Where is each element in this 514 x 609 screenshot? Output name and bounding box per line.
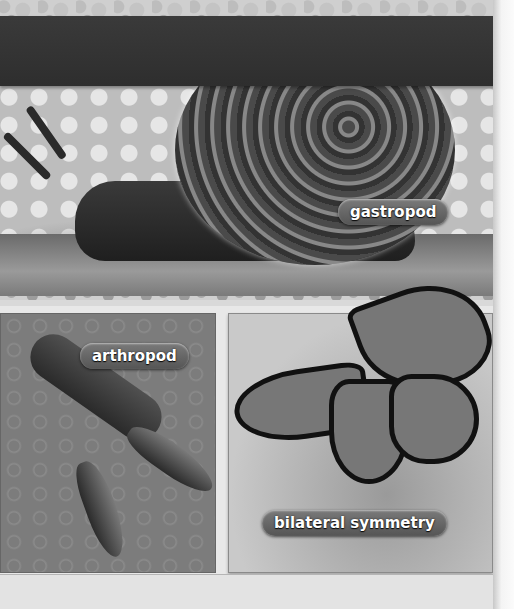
lobster-claw	[121, 418, 220, 500]
label-text: arthropod	[92, 347, 177, 365]
label-gastropod: gastropod	[338, 199, 448, 225]
page-margin	[493, 0, 514, 609]
footer-strip	[0, 574, 493, 609]
title-bar	[0, 16, 514, 86]
label-arthropod: arthropod	[80, 343, 189, 369]
tentacle	[2, 131, 51, 180]
tentacle	[25, 105, 67, 160]
label-bilateral-symmetry: bilateral symmetry	[262, 510, 447, 536]
label-text: gastropod	[350, 203, 436, 221]
page: gastropod arthropod bilateral symmetry	[0, 0, 493, 609]
lobster-claw	[70, 457, 132, 561]
label-text: bilateral symmetry	[274, 514, 435, 532]
butterfly-wing	[389, 374, 479, 464]
